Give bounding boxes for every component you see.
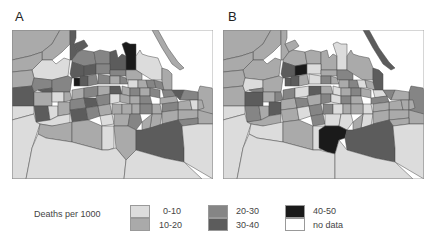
map-region — [130, 96, 140, 104]
map-region — [128, 80, 138, 88]
map-region — [178, 100, 192, 110]
map-region — [12, 86, 34, 106]
map-region — [341, 88, 351, 96]
map-region — [263, 92, 275, 102]
map-region — [12, 70, 34, 88]
choropleth-map-b — [223, 30, 424, 179]
map-region — [321, 50, 337, 70]
map-region — [94, 50, 110, 64]
map-region — [321, 70, 337, 76]
map-region — [223, 70, 245, 88]
map-region — [321, 76, 331, 84]
map-region — [80, 76, 88, 86]
map-region — [291, 76, 299, 86]
map-region — [269, 102, 281, 116]
map-region — [361, 88, 371, 98]
map-region — [341, 96, 351, 104]
map-region — [102, 126, 114, 150]
legend-swatch-40-50 — [285, 205, 305, 218]
map-region — [88, 74, 98, 86]
map-region — [96, 64, 110, 74]
legend-label-30-40: 30-40 — [236, 220, 259, 230]
map-region — [98, 74, 110, 84]
legend-label-10-20: 10-20 — [159, 220, 182, 230]
map-region — [140, 104, 152, 114]
map-region — [150, 88, 160, 98]
map-region — [299, 74, 309, 86]
map-region — [331, 94, 341, 104]
map-region — [363, 104, 373, 114]
map-region — [297, 106, 311, 120]
map-region — [70, 108, 88, 122]
legend-swatch-30-40 — [208, 218, 228, 231]
legend-swatch-10-20 — [130, 218, 150, 231]
panel-label-b: B — [228, 9, 237, 24]
map-region — [34, 92, 52, 106]
map-region — [120, 94, 130, 104]
map-region — [58, 102, 70, 116]
map-region — [100, 114, 114, 126]
map-region — [140, 88, 150, 96]
map-region — [110, 94, 120, 104]
map-region — [373, 68, 383, 90]
choropleth-map-a — [12, 30, 213, 179]
map-region — [321, 86, 333, 94]
map-region — [325, 114, 341, 126]
map-region — [339, 80, 349, 88]
map-region — [351, 104, 363, 114]
map-region — [321, 94, 331, 104]
map-region — [110, 86, 122, 94]
map-region — [305, 50, 321, 64]
map-region — [114, 114, 130, 126]
map-b-regions — [223, 30, 424, 179]
map-region — [52, 92, 64, 102]
map-region — [110, 50, 126, 70]
map-region — [162, 68, 172, 90]
map-region — [311, 114, 325, 126]
map-region — [140, 96, 152, 104]
legend-label-0-10: 0-10 — [163, 206, 181, 216]
legend-swatch-0-10 — [130, 205, 150, 218]
map-region — [132, 104, 140, 114]
legend-swatch-20-30 — [208, 205, 228, 218]
legend-label-40-50: 40-50 — [313, 206, 336, 216]
map-region — [74, 78, 80, 86]
map-region — [86, 106, 100, 120]
map-region — [343, 104, 351, 114]
legend-swatch-no-data — [285, 218, 305, 231]
map-region — [309, 74, 321, 84]
map-region — [281, 108, 299, 122]
map-region — [110, 70, 126, 76]
map-a-regions — [12, 30, 213, 179]
legend-title: Deaths per 1000 — [34, 209, 101, 219]
map-region — [307, 64, 321, 74]
map-region — [389, 100, 403, 110]
map-region — [130, 88, 140, 96]
map-region — [110, 76, 120, 84]
legend: Deaths per 1000 0-10 10-20 20-30 30-40 4… — [0, 204, 431, 236]
map-region — [351, 88, 361, 96]
map-region — [245, 106, 261, 122]
map-region — [351, 96, 363, 104]
map-region — [223, 86, 245, 106]
legend-label-no-data: no data — [313, 220, 343, 230]
legend-label-20-30: 20-30 — [236, 206, 259, 216]
map-region — [245, 92, 263, 106]
map-region — [34, 106, 50, 122]
map-region — [285, 78, 291, 86]
panel-label-a: A — [15, 9, 24, 24]
map-region — [152, 104, 162, 114]
